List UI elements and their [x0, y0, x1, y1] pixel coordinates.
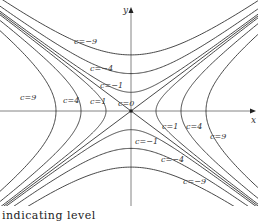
level-curve-c4-a	[181, 0, 258, 223]
level-label: c=−4	[90, 64, 113, 73]
level-label: c=−1	[135, 137, 158, 146]
level-label: c=9	[20, 93, 36, 102]
x-axis-label: x	[251, 115, 256, 125]
level-curve-c1-a	[156, 0, 258, 223]
contour-plot: x y c=9c=4c=1c=0c=−9c=−4c=−1c=1c=4c=9c=−…	[0, 0, 258, 223]
level-label: c=4	[186, 122, 202, 131]
level-label: c=1	[90, 97, 106, 106]
level-curves	[0, 0, 258, 223]
level-label: c=9	[210, 132, 226, 141]
y-axis-arrow-icon	[129, 7, 134, 13]
level-label: c=0	[118, 99, 134, 108]
level-label: c=4	[63, 96, 79, 105]
level-label: c=1	[162, 122, 178, 131]
level-curve-c-1-a	[0, 0, 258, 92]
level-label: c=−9	[74, 37, 97, 46]
level-curve-c-4-a	[0, 0, 258, 74]
level-label: c=−9	[183, 177, 206, 186]
level-curve-c-9-a	[0, 0, 258, 55]
x-axis-arrow-icon	[250, 109, 256, 114]
level-label: c=−4	[161, 155, 184, 164]
origin-point	[129, 109, 133, 113]
figure-caption: indicating level	[2, 209, 96, 222]
level-label: c=−1	[100, 81, 123, 90]
y-axis-label: y	[122, 5, 129, 15]
